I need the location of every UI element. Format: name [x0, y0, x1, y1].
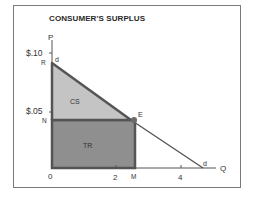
demand-curve	[131, 120, 203, 168]
demand-label-bottom: d	[203, 160, 207, 167]
p-axis-label: P	[48, 33, 53, 42]
tr-label: TR	[83, 142, 92, 149]
y-tick-label-010: $.10	[26, 48, 43, 58]
cs-region	[52, 63, 131, 120]
demand-label-top: d	[55, 56, 59, 63]
point-n-label: N	[42, 117, 47, 124]
equilibrium-point	[131, 117, 137, 123]
x-tick-label-2: 2	[113, 173, 118, 182]
cs-label: CS	[70, 98, 80, 105]
tr-region	[52, 120, 135, 168]
x-tick-label-4: 4	[178, 173, 183, 182]
point-r-label: R	[41, 59, 46, 66]
point-m-label: M	[131, 173, 136, 180]
q-axis-label: Q	[220, 164, 226, 173]
point-e-label: E	[138, 111, 143, 118]
consumer-surplus-diagram: P $.10 R d $.05 N CS TR E d Q 0 2 M 4	[0, 0, 253, 203]
y-tick-label-005: $.05	[26, 106, 43, 116]
x-tick-label-0: 0	[48, 172, 53, 181]
